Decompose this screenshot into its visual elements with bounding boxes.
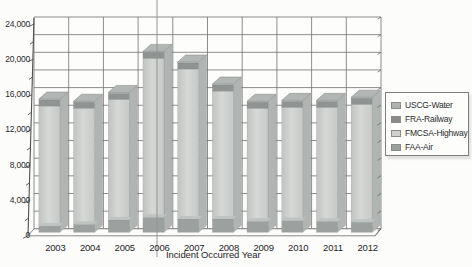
bar-2009-faa-air-segment [247, 221, 268, 232]
bar-2007-side-face [199, 55, 207, 232]
bar-2008-fmcsa-highway-segment [212, 91, 233, 219]
bar-2009-fra-railway-segment [247, 102, 268, 108]
bar-2011-faa-air-segment [316, 221, 337, 232]
legend-swatch-faa-air [391, 144, 401, 151]
legend-box: USCG-Water FRA-Railway FMCSA-Highway FAA… [385, 92, 469, 156]
legend-item-uscg-water: USCG-Water [391, 98, 468, 112]
bar-2011-air-cap-sliver [316, 218, 341, 221]
bar-2012-fra-railway-segment [351, 98, 372, 104]
bar-2008-fra-railway-segment [212, 85, 233, 91]
bar-2007-faa-air-segment [178, 219, 199, 232]
x-tick-label-2012: 2012 [351, 242, 385, 253]
bar-2003-air-cap-sliver [39, 223, 64, 226]
bar-2007-fmcsa-highway-segment [178, 69, 199, 219]
bar-2004-fra-railway-segment [74, 102, 95, 108]
bar-2008-side-face [233, 77, 241, 232]
bar-2008-air-cap-sliver [212, 216, 237, 219]
bar-2010-faa-air-segment [282, 220, 303, 232]
bar-2004-air-cap-sliver [74, 221, 99, 224]
bar-2006-side-face [164, 44, 172, 232]
y-tick-label-20000: 20,000 [0, 55, 30, 64]
legend-item-fra-railway: FRA-Railway [391, 112, 468, 126]
bar-2012-side-face [372, 90, 380, 232]
legend-swatch-fra-railway [391, 116, 401, 123]
y-tick-label-12000: 12,000 [0, 125, 30, 134]
x-axis-title: Incident Occurred Year [166, 249, 260, 260]
legend-label: USCG-Water [405, 100, 453, 110]
bar-2004-side-face [95, 94, 103, 232]
bar-2005-fmcsa-highway-segment [108, 99, 129, 219]
bar-2010-fmcsa-highway-segment [282, 107, 303, 220]
bar-2011-fmcsa-highway-segment [316, 107, 337, 221]
bar-2004-faa-air-segment [74, 224, 95, 232]
bar-2009-fmcsa-highway-segment [247, 108, 268, 221]
y-tick-label-0: 0 [0, 231, 30, 240]
bar-2005-side-face [129, 85, 137, 232]
bar-2007-air-cap-sliver [178, 216, 203, 219]
legend-item-faa-air: FAA-Air [391, 140, 468, 154]
y-tick-label-4000: 4,000 [0, 196, 30, 205]
bar-2006-fra-railway-segment [143, 52, 164, 58]
x-tick-label-2011: 2011 [316, 242, 350, 253]
bar-2010-side-face [303, 93, 311, 232]
bar-2006-faa-air-segment [143, 217, 164, 232]
y-tick-label-24000: 24,000 [0, 20, 30, 29]
x-tick-label-2004: 2004 [73, 242, 107, 253]
y-tick-label-8000: 8,000 [0, 161, 30, 170]
bar-2006-air-cap-sliver [143, 214, 168, 217]
legend-label: FRA-Railway [405, 114, 452, 124]
bar-2006-fmcsa-highway-segment [143, 58, 164, 217]
legend-label: FAA-Air [405, 142, 433, 152]
legend-swatch-fmcsa-highway [391, 130, 401, 137]
bar-2003-fra-railway-segment [39, 100, 60, 106]
bar-2005-faa-air-segment [108, 220, 129, 232]
bar-2004-fmcsa-highway-segment [74, 108, 95, 224]
bar-2009-air-cap-sliver [247, 218, 271, 221]
bar-2011-fra-railway-segment [316, 101, 337, 107]
bar-2011-side-face [337, 93, 345, 232]
x-tick-label-2003: 2003 [38, 242, 72, 253]
x-tick-label-2010: 2010 [281, 242, 315, 253]
legend-label: FMCSA-Highway [405, 128, 468, 138]
bar-2007-fra-railway-segment [178, 63, 199, 69]
bar-2012-faa-air-segment [351, 222, 372, 232]
bar-2009-side-face [268, 94, 276, 232]
bar-2010-fra-railway-segment [282, 101, 303, 107]
y-tick-label-16000: 16,000 [0, 90, 30, 99]
bar-2012-air-cap-sliver [351, 219, 376, 222]
bar-2005-fra-railway-segment [108, 93, 129, 99]
bar-2005-air-cap-sliver [108, 217, 133, 220]
legend-item-fmcsa-highway: FMCSA-Highway [391, 126, 468, 140]
bar-2012-fmcsa-highway-segment [351, 104, 372, 222]
x-tick-label-2005: 2005 [108, 242, 142, 253]
bar-2003-fmcsa-highway-segment [39, 106, 60, 226]
chart-figure: 0 4,000 8,000 12,000 16,000 20,000 24,00… [0, 0, 472, 267]
bar-2003-faa-air-segment [39, 226, 60, 232]
legend-swatch-uscg-water [391, 102, 401, 109]
bar-2003-side-face [60, 92, 68, 232]
bar-2010-air-cap-sliver [282, 217, 307, 220]
bar-2008-faa-air-segment [212, 219, 233, 232]
